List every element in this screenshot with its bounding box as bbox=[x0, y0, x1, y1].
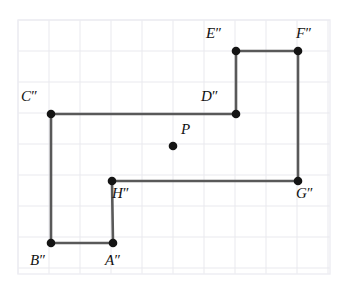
vertex-dot-c bbox=[47, 110, 56, 119]
point-label-h: H″ bbox=[112, 186, 129, 201]
vertex-dot-h bbox=[108, 177, 117, 186]
vertex-dot-b bbox=[47, 239, 56, 248]
vertex-dot-f bbox=[294, 47, 303, 56]
marked-point-dots bbox=[169, 142, 178, 151]
point-label-f: F″ bbox=[296, 26, 311, 41]
point-label-a: A″ bbox=[105, 253, 120, 268]
point-label-e: E″ bbox=[206, 26, 221, 41]
marked-point-p bbox=[169, 142, 178, 151]
vertex-dot-d bbox=[232, 110, 241, 119]
vertex-dot-g bbox=[294, 177, 303, 186]
vertex-dot-e bbox=[232, 47, 241, 56]
figure-canvas: A″B″C″D″E″F″G″H″P bbox=[0, 0, 347, 292]
geometry-diagram bbox=[0, 0, 347, 292]
point-label-c: C″ bbox=[21, 89, 37, 104]
vertex-dot-a bbox=[109, 239, 118, 248]
point-label-g: G″ bbox=[296, 186, 313, 201]
point-label-b: B″ bbox=[30, 253, 45, 268]
point-label-d: D″ bbox=[201, 89, 218, 104]
point-label-p: P bbox=[181, 122, 190, 137]
